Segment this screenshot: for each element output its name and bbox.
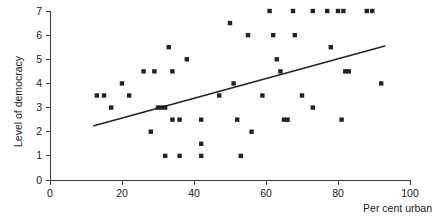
data-point-marker [379, 81, 383, 85]
data-point-marker [285, 117, 289, 121]
data-point-marker [109, 105, 113, 109]
data-point-marker [127, 93, 131, 97]
data-point-marker [275, 57, 279, 61]
y-tick-label: 0 [36, 174, 42, 186]
data-point-marker [141, 69, 145, 73]
y-tick-label: 2 [36, 125, 42, 137]
data-point-marker [370, 9, 374, 13]
regression-line [94, 46, 385, 126]
data-point-marker [291, 9, 295, 13]
data-point-marker [199, 142, 203, 146]
data-point-marker [231, 81, 235, 85]
data-point-marker [267, 9, 271, 13]
data-point-marker [249, 130, 253, 134]
data-point-marker [163, 154, 167, 158]
data-point-marker [199, 154, 203, 158]
data-point-marker [325, 9, 329, 13]
data-point-marker [347, 69, 351, 73]
data-point-marker [311, 9, 315, 13]
x-tick-label: 60 [260, 187, 272, 199]
trend-line-group [94, 46, 385, 126]
data-point-marker [365, 9, 369, 13]
data-point-marker [246, 33, 250, 37]
data-point-marker [228, 21, 232, 25]
x-tick-label: 0 [47, 187, 53, 199]
x-tick-label: 20 [116, 187, 128, 199]
data-point-marker [311, 105, 315, 109]
data-point-marker [170, 117, 174, 121]
x-axis-title: Per cent urban [363, 202, 432, 214]
data-point-marker [120, 81, 124, 85]
axes-group: 01234567020406080100 [36, 5, 419, 199]
plot-canvas: 01234567020406080100 Per cent urban Leve… [0, 0, 436, 222]
data-point-marker [336, 9, 340, 13]
data-point-marker [300, 93, 304, 97]
data-point-marker [293, 33, 297, 37]
y-tick-label: 3 [36, 101, 42, 113]
data-points-group [95, 9, 384, 158]
data-point-marker [329, 45, 333, 49]
y-tick-label: 5 [36, 53, 42, 65]
data-point-marker [271, 33, 275, 37]
data-point-marker [239, 154, 243, 158]
data-point-marker [177, 154, 181, 158]
data-point-marker [341, 9, 345, 13]
scatter-plot-figure: 01234567020406080100 Per cent urban Leve… [0, 0, 436, 222]
data-point-marker [167, 45, 171, 49]
y-tick-label: 1 [36, 149, 42, 161]
data-point-marker [339, 117, 343, 121]
y-tick-label: 4 [36, 77, 42, 89]
data-point-marker [177, 117, 181, 121]
x-tick-label: 40 [188, 187, 200, 199]
axis-titles-group: Per cent urban Level of democracy [12, 55, 432, 214]
y-tick-label: 6 [36, 29, 42, 41]
x-tick-label: 80 [332, 187, 344, 199]
data-point-marker [170, 69, 174, 73]
y-axis-title: Level of democracy [12, 55, 24, 147]
data-point-marker [149, 130, 153, 134]
data-point-marker [152, 69, 156, 73]
data-point-marker [102, 93, 106, 97]
data-point-marker [185, 57, 189, 61]
data-point-marker [235, 117, 239, 121]
y-tick-label: 7 [36, 5, 42, 17]
data-point-marker [278, 69, 282, 73]
data-point-marker [260, 93, 264, 97]
data-point-marker [199, 117, 203, 121]
data-point-marker [217, 93, 221, 97]
data-point-marker [95, 93, 99, 97]
x-tick-label: 100 [401, 187, 419, 199]
